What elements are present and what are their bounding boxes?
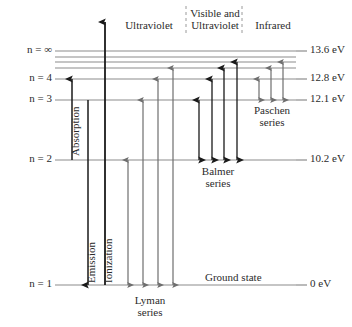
band-label-visible-ultraviolet-line2: Ultraviolet (188, 20, 242, 32)
emission-label: Emission (86, 242, 98, 283)
energy-level-diagram: Ultraviolet Visible and Ultraviolet Infr… (0, 0, 352, 327)
energy-label-12-1: 12.1 eV (310, 93, 345, 105)
band-label-ultraviolet: Ultraviolet (112, 20, 186, 32)
level-label-n-infinity: n = ∞ (4, 44, 52, 56)
energy-label-13-6: 13.6 eV (310, 44, 345, 56)
lyman-series-label-line2: series (110, 307, 190, 319)
ground-state-label: Ground state (205, 272, 262, 284)
balmer-series-arrows (199, 62, 237, 160)
level-label-n-3: n = 3 (4, 93, 52, 105)
energy-label-12-8: 12.8 eV (310, 72, 345, 84)
level-label-n-2: n = 2 (4, 153, 52, 165)
ionization-label: Ionization (103, 238, 115, 283)
paschen-series-label-line2: series (243, 117, 301, 129)
diagram-canvas (0, 0, 352, 327)
energy-value-ticks (296, 51, 307, 285)
band-label-infrared: Infrared (245, 20, 301, 32)
energy-label-10-2: 10.2 eV (310, 153, 345, 165)
level-label-n-1: n = 1 (4, 278, 52, 290)
balmer-series-label-line2: series (180, 178, 256, 190)
level-label-n-4: n = 4 (4, 72, 52, 84)
energy-label-0: 0 eV (310, 278, 331, 290)
absorption-label: Absorption (70, 107, 82, 157)
